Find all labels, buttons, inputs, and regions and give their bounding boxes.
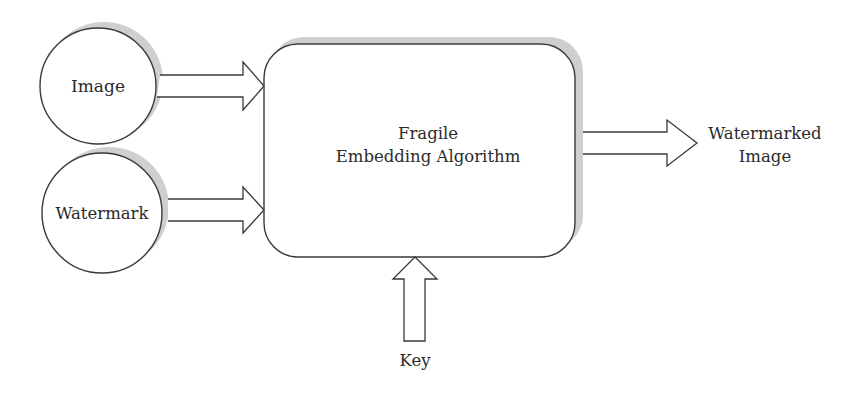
arrow-image-to-algorithm: [157, 62, 264, 110]
fragile-watermark-diagram: Image Watermark Fragile Embedding Algori…: [0, 0, 865, 393]
image-node: Image: [40, 22, 163, 144]
algorithm-node: Fragile Embedding Algorithm: [264, 37, 583, 257]
output-node: Watermarked Image: [708, 124, 822, 166]
watermark-node: Watermark: [42, 147, 169, 273]
arrow-algorithm-to-output: [583, 120, 697, 166]
algorithm-label-line2: Embedding Algorithm: [336, 147, 521, 166]
key-label: Key: [400, 351, 432, 370]
output-label-line2: Image: [739, 147, 791, 166]
arrow-watermark-to-algorithm: [168, 187, 264, 233]
algorithm-label-line1: Fragile: [398, 124, 458, 143]
arrow-key-to-algorithm: [393, 257, 437, 341]
watermark-node-label: Watermark: [55, 204, 149, 223]
image-node-label: Image: [71, 76, 125, 96]
output-label-line1: Watermarked: [708, 124, 822, 143]
